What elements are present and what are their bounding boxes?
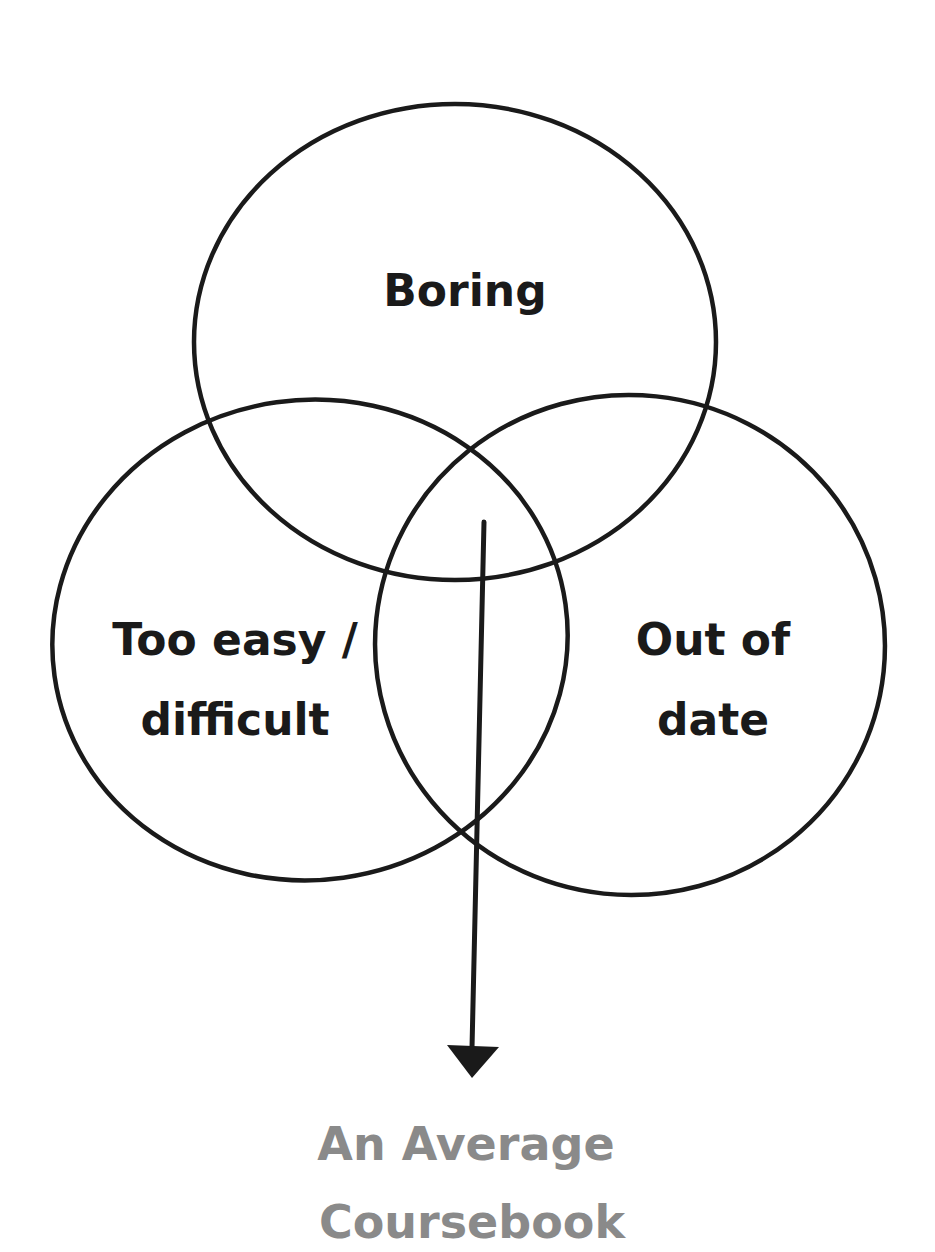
arrow-head-icon — [447, 1045, 499, 1078]
label-out-of-date-line1: Out of — [636, 614, 791, 665]
venn-diagram: Boring Too easy / difficult Out of date … — [0, 0, 935, 1252]
circle-out-of-date — [350, 370, 909, 921]
result-label-line2: Coursebook — [319, 1195, 627, 1249]
circle-boring — [194, 104, 716, 580]
label-boring: Boring — [383, 265, 546, 316]
label-too-easy-line2: difficult — [140, 694, 329, 745]
label-too-easy-line1: Too easy / — [112, 614, 359, 665]
arrow-shaft — [472, 522, 484, 1048]
label-out-of-date-line2: date — [657, 694, 769, 745]
result-label-line1: An Average — [317, 1117, 614, 1171]
